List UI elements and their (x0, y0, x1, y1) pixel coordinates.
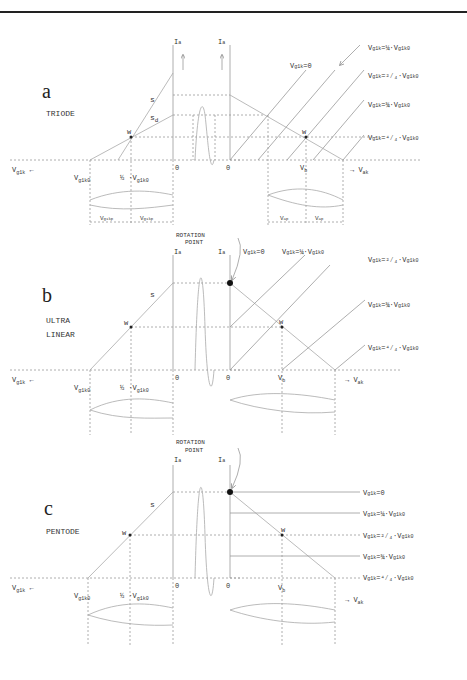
panel-c-pentode (10, 448, 360, 645)
label-s-c: s (150, 500, 155, 509)
panel-c-title: PENTODE (46, 527, 80, 536)
curve-label-c-3: Vg1k=¾·Vg1k0 (363, 553, 405, 561)
rotation-point-c: ROTATION (176, 439, 205, 446)
panel-a-title: TRIODE (46, 109, 75, 118)
label-zero-right: 0 (226, 164, 230, 172)
curve-label-a-4: Vg1k=⁴⁄₄·Vg1k0 (368, 134, 418, 142)
panel-b-title-line2: LINEAR (46, 330, 75, 339)
label-vg1k-axis: Vg1k ← (12, 166, 34, 176)
curve-label-b-0: Vg1k=0 (243, 248, 265, 256)
panel-a-letter: a (42, 80, 51, 102)
label-zero-b-2: 0 (226, 374, 230, 382)
curve-label-a-0: Vg1k=0 (290, 62, 312, 70)
label-half-b: ½ ·Vg1k0 (120, 384, 149, 394)
label-zero-c-1: 0 (175, 582, 179, 590)
label-vg1kp-2: Vg1kp (140, 215, 154, 222)
label-vap-1: Vap (280, 215, 289, 222)
curve-label-b-3: Vg1k=¾·Vg1k0 (368, 301, 410, 309)
label-w-b: w (124, 319, 129, 327)
label-vak-c: → Vak (345, 596, 364, 606)
curve-label-a-2: Vg1k=²⁄₄·Vg1k0 (368, 72, 418, 80)
panel-c-letter: c (44, 497, 53, 519)
label-w-c: w (122, 529, 127, 537)
label-ia-left-b: Ia (174, 248, 181, 256)
label-zero-c-2: 0 (226, 582, 230, 590)
label-w: w (127, 128, 132, 136)
label-vg1k0-c: Vg1k0 (74, 592, 90, 602)
label-ia-left-c: Ia (174, 456, 181, 464)
panel-b-title-line1: ULTRA (46, 316, 70, 325)
label-ia-right-b: Ia (218, 248, 225, 256)
label-vb-c: Vb (278, 584, 285, 594)
label-vg1k0-b: Vg1k0 (74, 384, 90, 394)
label-w-anode-b: w (279, 318, 284, 326)
label-vak-b: → Vak (345, 376, 364, 386)
label-vb-b: Vb (278, 374, 285, 384)
rotation-point-b: ROTATION (176, 232, 205, 239)
label-zero-left: 0 (175, 164, 179, 172)
label-vak: → Vak (350, 166, 369, 176)
label-vg1k-axis-b: Vg1k ← (12, 376, 34, 386)
curve-label-a-3: Vg1k=¾·Vg1k0 (368, 101, 410, 109)
label-w-anode: w (302, 128, 307, 136)
label-w-anode-c: w (281, 526, 286, 534)
panel-b-letter: b (42, 284, 52, 306)
label-half-c: ½ ·Vg1k0 (120, 592, 149, 602)
label-half-vg1k0: ½ ·Vg1k0 (120, 174, 149, 184)
label-vg1k0: Vg1k0 (74, 174, 90, 184)
label-s-b: s (150, 290, 155, 299)
label-vg1k-axis-c: Vg1k ← (12, 584, 34, 594)
rotation-point-b-2: POINT (185, 239, 203, 246)
label-ia-right: Ia (218, 38, 225, 46)
curve-label-b-1: Vg1k=¼·Vg1k0 (282, 248, 324, 256)
curve-label-c-2: Vg1k=²⁄₄·Vg1k0 (363, 532, 413, 540)
rotation-point-c-2: POINT (185, 447, 203, 454)
label-vg1kp-1: Vg1kp (100, 215, 114, 222)
label-ia-right-c: Ia (218, 456, 225, 464)
label-zero-b-1: 0 (175, 374, 179, 382)
curve-label-c-0: Vg1k=0 (363, 489, 385, 497)
curve-label-b-4: Vg1k=⁴⁄₄·Vg1k0 (368, 344, 418, 352)
curve-label-c-4: Vg1k=⁴⁄₄·Vg1k0 (363, 574, 413, 582)
curve-label-b-2: Vg1k=²⁄₄·Vg1k0 (368, 256, 418, 264)
label-vap-2: Vap (315, 215, 324, 222)
curve-label-a-1: Vg1k=¼·Vg1k0 (368, 44, 410, 52)
label-s: s (150, 95, 155, 104)
curve-label-c-1: Vg1k=¼·Vg1k0 (363, 510, 405, 518)
label-sd: sd (150, 113, 159, 124)
panel-a-triode (10, 45, 420, 225)
tube-characteristics-diagram: a TRIODE s sd w w Ia Ia 0 0 Vg1k ← Vg1k0… (0, 0, 467, 680)
label-ia-left: Ia (174, 38, 181, 46)
